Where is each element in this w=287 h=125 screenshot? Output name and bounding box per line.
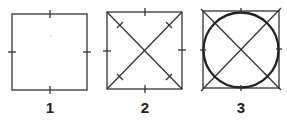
figure-1-label: 1 [40, 99, 60, 116]
figure-2-square-diagonals [103, 8, 186, 93]
figure-1-square [8, 10, 91, 94]
figure-3-label: 3 [231, 99, 251, 116]
figure-2-label: 2 [135, 99, 155, 116]
center-dot [50, 35, 51, 36]
figure-3-square-circle [200, 8, 282, 91]
